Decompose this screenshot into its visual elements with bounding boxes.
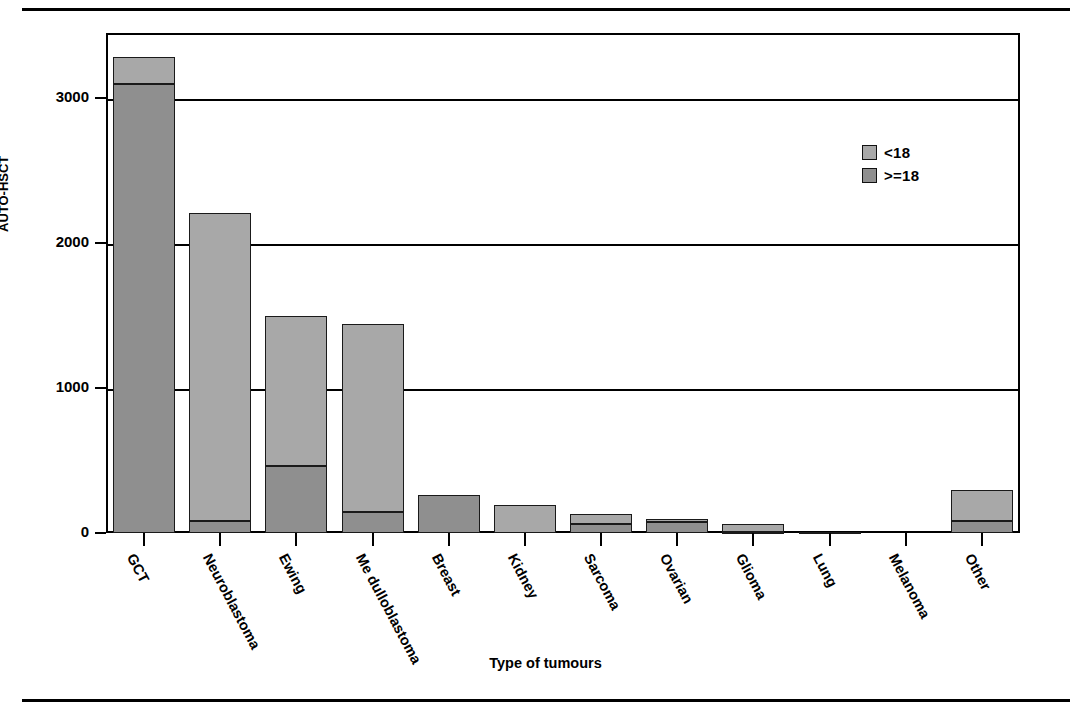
bar-segment-18-and-over (418, 495, 480, 533)
bar-segment-under-18 (494, 505, 556, 533)
y-tick-mark (95, 242, 106, 244)
x-axis-title: Type of tumours (0, 655, 1091, 671)
x-tick-label: Sarcoma (581, 551, 624, 613)
x-tick-mark (676, 533, 678, 546)
x-tick-label: Me dulloblastoma (352, 551, 424, 667)
bar-segment-under-18 (722, 524, 784, 531)
y-tick-mark (95, 387, 106, 389)
bar-segment-18-and-over (265, 466, 327, 533)
legend-label: >=18 (884, 167, 919, 184)
x-tick-mark (981, 533, 983, 546)
x-tick-mark (219, 533, 221, 546)
bar-segment-under-18 (951, 490, 1013, 522)
bar (418, 495, 480, 533)
bar (342, 324, 404, 533)
bar-segment-under-18 (342, 324, 404, 512)
x-tick-label: Glioma (733, 551, 770, 602)
x-tick-mark (448, 533, 450, 546)
bar (189, 213, 251, 533)
x-tick-mark (752, 533, 754, 546)
bar (265, 316, 327, 533)
y-tick-mark (95, 97, 106, 99)
x-tick-mark (600, 533, 602, 546)
x-tick-label: Breast (429, 551, 464, 598)
x-tick-mark (905, 533, 907, 546)
chart-legend: <18>=18 (862, 142, 919, 188)
bar (951, 490, 1013, 533)
figure: 0100020003000 AUTO-HSCT GCTNeuroblastoma… (0, 0, 1091, 710)
bar (494, 505, 556, 533)
x-tick-label: Ovarian (657, 551, 696, 606)
x-tick-mark (295, 533, 297, 546)
y-tick-label: 1000 (6, 378, 89, 395)
legend-swatch (862, 145, 877, 160)
bar-segment-18-and-over (646, 522, 708, 533)
x-tick-label: Other (962, 551, 994, 593)
y-tick-label: 3000 (6, 88, 89, 105)
bar-segment-under-18 (113, 57, 175, 84)
bar-segment-under-18 (570, 514, 632, 524)
y-axis-title: AUTO-HSCT (0, 156, 11, 232)
x-tick-label: Lung (809, 551, 840, 590)
x-tick-label: Neuroblastoma (200, 551, 264, 652)
page-bottom-rule (22, 699, 1070, 702)
legend-item: >=18 (862, 165, 919, 186)
x-tick-mark (829, 533, 831, 546)
bar (113, 57, 175, 533)
bar-segment-18-and-over (113, 84, 175, 533)
bar (646, 519, 708, 533)
x-tick-mark (524, 533, 526, 546)
x-tick-label: Melanoma (886, 551, 933, 621)
bar (722, 524, 784, 533)
bar (570, 514, 632, 533)
legend-item: <18 (862, 142, 919, 163)
bar-segment-18-and-over (570, 524, 632, 533)
bar-segment-under-18 (265, 316, 327, 467)
page-top-rule (22, 8, 1070, 11)
x-tick-mark (372, 533, 374, 546)
x-tick-label: Ewing (276, 551, 310, 596)
x-tick-label: Kidney (505, 551, 542, 601)
bar-segment-18-and-over (342, 512, 404, 533)
bar-segment-18-and-over (951, 521, 1013, 533)
x-tick-mark (143, 533, 145, 546)
bar-segment-18-and-over (189, 521, 251, 533)
bar-segment-under-18 (189, 213, 251, 521)
gridline (108, 99, 1018, 101)
y-tick-mark (95, 532, 106, 534)
legend-swatch (862, 168, 877, 183)
y-tick-label: 0 (6, 523, 89, 540)
x-tick-label: GCT (124, 551, 152, 586)
y-tick-label: 2000 (6, 233, 89, 250)
legend-label: <18 (884, 144, 910, 161)
